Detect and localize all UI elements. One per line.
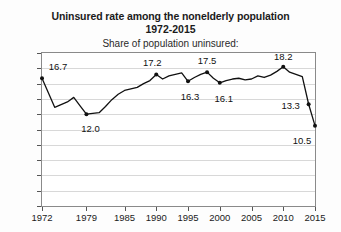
data-point-label: 10.5 bbox=[293, 134, 312, 145]
data-point-marker bbox=[281, 65, 285, 69]
data-point-marker bbox=[307, 102, 311, 106]
x-axis-tick-label: 2005 bbox=[241, 212, 262, 223]
data-point-marker bbox=[154, 72, 158, 76]
x-axis-tick-mark bbox=[125, 207, 126, 211]
plot-area: 16.712.017.216.317.516.118.213.310.5 bbox=[41, 52, 316, 207]
data-point-marker bbox=[205, 70, 209, 74]
x-axis: 197219791985199019952000200520102015 bbox=[41, 207, 316, 232]
x-axis-tick-label: 1985 bbox=[114, 212, 135, 223]
data-point-marker bbox=[40, 76, 44, 80]
page-title: Uninsured rate among the nonelderly popu… bbox=[0, 10, 341, 23]
x-axis-tick-mark bbox=[188, 207, 189, 211]
chart-subtitle: Share of population uninsured: bbox=[0, 38, 341, 49]
x-axis-tick-label: 1990 bbox=[146, 212, 167, 223]
data-point-label: 16.3 bbox=[181, 91, 200, 102]
x-axis-tick-mark bbox=[156, 207, 157, 211]
chart-title-block: Uninsured rate among the nonelderly popu… bbox=[0, 10, 341, 35]
data-point-label: 17.2 bbox=[143, 57, 162, 68]
x-axis-tick-label: 2010 bbox=[273, 212, 294, 223]
x-axis-tick-mark bbox=[252, 207, 253, 211]
data-point-marker bbox=[84, 112, 88, 116]
series-line bbox=[42, 67, 315, 126]
data-point-label: 18.2 bbox=[274, 50, 293, 61]
x-axis-tick-label: 2015 bbox=[304, 212, 325, 223]
data-point-label: 16.1 bbox=[215, 92, 234, 103]
x-axis-tick-mark bbox=[86, 207, 87, 211]
data-point-label: 17.5 bbox=[198, 55, 217, 66]
data-point-marker bbox=[218, 81, 222, 85]
data-point-label: 13.3 bbox=[281, 100, 300, 111]
x-axis-tick-mark bbox=[42, 207, 43, 211]
data-point-marker bbox=[186, 79, 190, 83]
chart-title-years: 1972-2015 bbox=[0, 23, 341, 36]
x-axis-tick-mark bbox=[283, 207, 284, 211]
x-axis-tick-mark bbox=[220, 207, 221, 211]
data-point-label: 16.7 bbox=[49, 61, 68, 72]
y-axis: 02468101214161820 bbox=[0, 52, 41, 208]
data-point-marker bbox=[313, 124, 317, 128]
x-axis-tick-label: 1995 bbox=[177, 212, 198, 223]
x-axis-tick-label: 1972 bbox=[31, 212, 52, 223]
chart-container: Uninsured rate among the nonelderly popu… bbox=[0, 0, 341, 232]
x-axis-tick-mark bbox=[315, 207, 316, 211]
data-point-label: 12.0 bbox=[81, 123, 100, 134]
x-axis-tick-label: 2000 bbox=[209, 212, 230, 223]
x-axis-tick-label: 1979 bbox=[76, 212, 97, 223]
